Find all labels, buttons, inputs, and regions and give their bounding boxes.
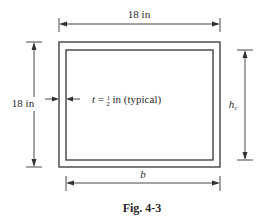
thickness-label: t = 12 in (typical) [92,93,161,108]
right-dimension: hc [229,50,253,160]
bottom-dimension: b [66,168,220,191]
top-dimension: 18 in [59,8,220,32]
left-height-label: 18 in [12,97,35,109]
inner-height-label: hc [229,98,239,112]
figure-caption: Fig. 4-3 [123,201,162,215]
box-section-diagram: 18 in 18 in t = 12 in (typical) hc [0,0,262,216]
top-width-label: 18 in [128,8,151,20]
left-dimension: 18 in [8,42,42,167]
inner-wall [66,50,213,160]
inner-width-label: b [140,168,146,180]
thickness-dimension: t = 12 in (typical) [45,93,161,108]
